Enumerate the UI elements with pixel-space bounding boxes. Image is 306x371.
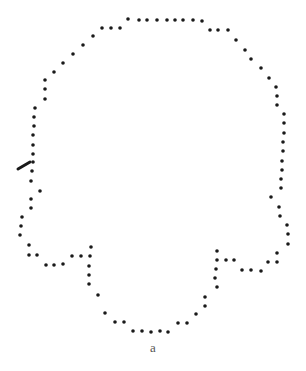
outline-dot	[155, 18, 159, 22]
outline-dot	[31, 152, 35, 156]
outline-dot	[232, 258, 236, 262]
outline-dot	[194, 312, 198, 316]
outline-dot	[44, 263, 48, 267]
outline-dot	[281, 149, 285, 153]
outline-dot	[259, 66, 263, 70]
outline-dot	[81, 43, 85, 47]
outline-dot	[29, 179, 33, 183]
figure-caption: a	[0, 340, 306, 356]
outline-dot	[215, 249, 219, 253]
outline-dot	[216, 28, 220, 32]
outline-dot	[103, 311, 107, 315]
outline-dot	[27, 243, 31, 247]
outline-dot	[240, 268, 244, 272]
outline-dot	[249, 57, 253, 61]
outline-dots	[18, 17, 290, 334]
outline-dot	[126, 17, 130, 21]
outline-dot	[214, 267, 218, 271]
outline-dot	[32, 115, 36, 119]
outline-dot	[29, 206, 33, 210]
outline-dot	[279, 186, 283, 190]
outline-dot	[215, 285, 219, 289]
dot-outline-figure	[0, 0, 306, 371]
outline-dot	[52, 70, 56, 74]
outline-dot	[96, 293, 100, 297]
outline-dot	[118, 26, 122, 30]
outline-dot	[19, 224, 23, 228]
outline-dot	[259, 269, 263, 273]
outline-dot	[249, 268, 253, 272]
outline-dot	[165, 18, 169, 22]
outline-dot	[87, 273, 91, 277]
outline-dot	[43, 78, 47, 82]
outline-dot	[20, 215, 24, 219]
outline-dot	[285, 223, 289, 227]
outline-dot	[140, 329, 144, 333]
outline-dot	[158, 329, 162, 333]
outline-dot	[29, 197, 33, 201]
outline-dot	[282, 131, 286, 135]
outline-dot	[131, 329, 135, 333]
outline-dot	[145, 18, 149, 22]
outline-dot	[286, 242, 290, 246]
outline-dot	[30, 169, 34, 173]
outline-dot	[91, 34, 95, 38]
outline-dot	[52, 263, 56, 267]
outline-dot	[282, 112, 286, 116]
outline-dot	[61, 61, 65, 65]
outline-dot	[275, 251, 279, 255]
outline-dot	[213, 276, 217, 280]
outline-dot	[89, 245, 93, 249]
outline-dot	[226, 28, 230, 32]
outline-dot	[33, 106, 37, 110]
outline-dot	[278, 214, 282, 218]
outline-dot	[113, 320, 117, 324]
outline-dot	[35, 253, 39, 257]
outline-dot	[274, 85, 278, 89]
outline-dot	[87, 282, 91, 286]
outline-dot	[32, 124, 36, 128]
outline-dot	[208, 28, 212, 32]
outline-dot	[243, 48, 247, 52]
arrow-mark	[18, 162, 30, 169]
outline-dot	[275, 103, 279, 107]
outline-dot	[267, 76, 271, 80]
outline-dot	[181, 18, 185, 22]
outline-dot	[266, 260, 270, 264]
outline-dot	[286, 232, 290, 236]
outline-dot	[43, 87, 47, 91]
outline-dot	[280, 159, 284, 163]
outline-dot	[279, 177, 283, 181]
outline-dot	[191, 18, 195, 22]
outline-dot	[173, 18, 177, 22]
outline-dot	[269, 195, 273, 199]
outline-dot	[38, 189, 42, 193]
outline-dot	[122, 320, 126, 324]
outline-dot	[88, 254, 92, 258]
outline-dot	[215, 258, 219, 262]
outline-dot	[18, 233, 22, 237]
outline-dot	[31, 133, 35, 137]
outline-dot	[280, 168, 284, 172]
outline-dot	[200, 19, 204, 23]
outline-dot	[31, 160, 35, 164]
outline-dot	[27, 253, 31, 257]
outline-dot	[137, 18, 141, 22]
outline-dot	[100, 26, 104, 30]
outline-dot	[149, 330, 153, 334]
outline-dot	[203, 295, 207, 299]
outline-dot	[166, 330, 170, 334]
outline-dot	[61, 262, 65, 266]
outline-dot	[277, 205, 281, 209]
outline-dot	[234, 38, 238, 42]
outline-dot	[203, 304, 207, 308]
outline-dot	[31, 143, 35, 147]
outline-dot	[275, 94, 279, 98]
outline-dot	[281, 140, 285, 144]
outline-dot	[109, 26, 113, 30]
outline-dot	[79, 254, 83, 258]
outline-dot	[70, 254, 74, 258]
outline-dot	[87, 264, 91, 268]
outline-dot	[224, 258, 228, 262]
outline-dot	[282, 121, 286, 125]
